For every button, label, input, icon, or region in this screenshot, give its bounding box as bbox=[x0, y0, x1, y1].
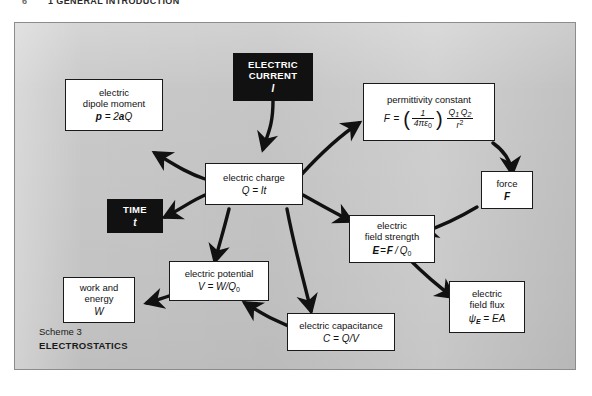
scheme-caption-line1: Scheme 3 bbox=[39, 325, 128, 339]
node-dipole-line1: electric bbox=[99, 87, 129, 98]
node-electric-charge-label: electric charge bbox=[223, 172, 285, 183]
node-work-symbol: W bbox=[94, 306, 103, 318]
node-capacitance-equation: C = Q/V bbox=[323, 333, 359, 345]
node-flux-line2: field flux bbox=[470, 299, 505, 310]
node-force-symbol: F bbox=[504, 191, 510, 203]
node-dipole-equation: p = 2aQ bbox=[96, 111, 132, 123]
node-electric-current[interactable]: ELECTRIC CURRENT I bbox=[233, 53, 313, 101]
node-permittivity-label: permittivity constant bbox=[387, 94, 471, 105]
node-time-label: TIME bbox=[123, 204, 147, 215]
node-electric-current-symbol: I bbox=[271, 83, 274, 95]
node-field-strength-line2: field strength bbox=[365, 231, 419, 242]
node-electric-potential-equation: V = W/Q0 bbox=[198, 281, 240, 294]
node-electric-potential[interactable]: electric potential V = W/Q0 bbox=[169, 261, 269, 301]
node-work-line2: energy bbox=[84, 293, 113, 304]
node-permittivity-constant[interactable]: permittivity constant F = ( 14πε0 ) Q1 Q… bbox=[363, 83, 495, 141]
node-flux-line1: electric bbox=[472, 288, 502, 299]
node-work-and-energy[interactable]: work and energy W bbox=[63, 277, 135, 323]
running-head: 6 1 GENERAL INTRODUCTION bbox=[0, 0, 592, 10]
node-electric-field-strength[interactable]: electric field strength E = F / Q0 bbox=[349, 215, 435, 263]
node-dipole-line2: dipole moment bbox=[83, 98, 145, 109]
node-electric-field-flux[interactable]: electric field flux ψE = EA bbox=[449, 281, 525, 333]
node-electric-potential-label: electric potential bbox=[185, 268, 254, 279]
node-electric-charge[interactable]: electric charge Q = It bbox=[205, 163, 303, 205]
node-time-symbol: t bbox=[133, 217, 137, 229]
node-flux-equation: ψE = EA bbox=[469, 313, 506, 326]
node-electric-capacitance[interactable]: electric capacitance C = Q/V bbox=[287, 313, 395, 351]
node-force-label: force bbox=[496, 178, 517, 189]
node-field-strength-line1: electric bbox=[377, 220, 407, 231]
node-capacitance-label: electric capacitance bbox=[299, 320, 382, 331]
node-force[interactable]: force F bbox=[481, 171, 533, 209]
running-title: 1 GENERAL INTRODUCTION bbox=[48, 0, 180, 6]
node-electric-current-line2: CURRENT bbox=[249, 70, 298, 81]
node-electric-dipole-moment[interactable]: electric dipole moment p = 2aQ bbox=[65, 79, 163, 131]
node-work-line1: work and bbox=[80, 282, 119, 293]
node-permittivity-equation: F = ( 14πε0 ) Q1 Q2 r2 bbox=[384, 108, 475, 130]
node-time[interactable]: TIME t bbox=[107, 199, 163, 233]
scheme-caption: Scheme 3 ELECTROSTATICS bbox=[39, 325, 128, 353]
node-field-strength-equation: E = F / Q0 bbox=[373, 245, 412, 258]
node-electric-current-line1: ELECTRIC bbox=[248, 59, 298, 70]
scheme-figure: ELECTRIC CURRENT I electric dipole momen… bbox=[14, 22, 576, 370]
scheme-caption-line2: ELECTROSTATICS bbox=[39, 339, 128, 353]
node-electric-charge-equation: Q = It bbox=[242, 185, 267, 197]
page-number: 6 bbox=[22, 0, 27, 6]
